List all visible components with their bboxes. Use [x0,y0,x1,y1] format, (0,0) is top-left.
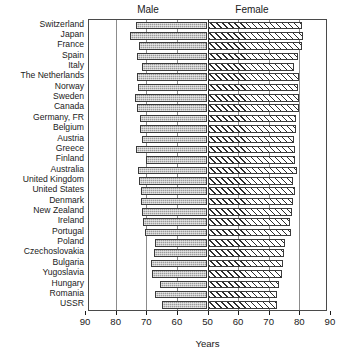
bar-female [208,104,300,112]
axis-tick-80 [116,311,117,315]
axis-title-years: Years [88,338,327,349]
bar-female [208,125,296,133]
axis-tick-label-50: 50 [196,316,220,327]
bar-male [162,301,207,309]
bar-male [142,63,208,71]
axis-tick-60 [238,311,239,315]
bar-female [208,146,295,154]
axis-tick-80 [299,311,300,315]
bar-male [155,239,208,247]
bar-male [140,125,207,133]
bar-male [141,198,208,206]
bar-female [208,177,294,185]
bar-female [208,63,294,71]
axis-tick-60 [177,311,178,315]
bar-female [208,167,297,175]
category-axis-labels: SwitzerlandJapanFranceSpainItalyThe Neth… [0,19,84,311]
bar-female [208,218,290,226]
bar-male [135,94,208,102]
bar-male [139,177,208,185]
bar-male [146,156,208,164]
bar-male [137,104,207,112]
axis-tick-90 [330,311,331,315]
panel-header-male: Male [118,4,178,15]
bar-male [136,22,208,30]
axis-tick-label-60: 60 [165,316,189,327]
bar-female [208,249,285,257]
bar-male [137,73,207,81]
axis-tick-label-60: 60 [226,316,250,327]
bar-male [160,281,207,289]
bar-female [208,84,299,92]
plot-area [88,19,327,311]
bar-male [136,146,208,154]
bar-male [138,84,208,92]
bar-female [208,32,303,40]
axis-tick-70 [269,311,270,315]
axis-tick-50 [208,311,209,315]
bar-male [142,136,208,144]
bar-male [152,270,207,278]
bar-row [89,300,326,311]
bar-female [208,187,296,195]
bar-female [208,198,293,206]
axis-tick-label-70: 70 [134,316,158,327]
bar-female [208,291,278,299]
bar-female [208,270,282,278]
bar-female [208,42,302,50]
bar-male [145,229,207,237]
value-axis: 908070605060708090 [88,311,327,341]
panel-header-female: Female [213,4,291,15]
bar-female [208,94,299,102]
axis-tick-label-80: 80 [104,316,128,327]
bar-female [208,22,303,30]
axis-tick-70 [146,311,147,315]
bar-female [208,73,299,81]
bar-male [140,115,208,123]
bar-female [208,260,284,268]
axis-tick-90 [85,311,86,315]
bar-female [208,136,295,144]
chart-container: Male Female SwitzerlandJapanFranceSpainI… [0,0,340,362]
axis-tick-label-80: 80 [287,316,311,327]
bar-male [143,218,207,226]
bar-male [141,187,207,195]
bar-male [130,32,207,40]
bar-male [142,208,208,216]
bar-female [208,156,296,164]
axis-tick-label-70: 70 [257,316,281,327]
bar-female [208,301,277,309]
bar-male [154,249,208,257]
bar-female [208,239,286,247]
axis-tick-label-90: 90 [73,316,97,327]
bar-male [138,167,208,175]
bar-female [208,53,299,61]
bar-female [208,281,280,289]
bar-male [155,291,207,299]
category-label: USSR [60,298,84,309]
bar-male [137,53,207,61]
bar-female [208,115,296,123]
bar-male [151,260,208,268]
axis-tick-label-90: 90 [318,316,340,327]
bar-female [208,229,292,237]
bar-female [208,208,292,216]
bar-rows [89,20,326,310]
bar-male [139,42,208,50]
